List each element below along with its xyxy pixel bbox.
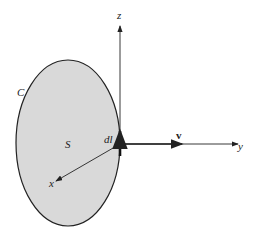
y-axis-label: y — [237, 140, 243, 152]
x-axis-label: x — [48, 177, 54, 189]
curve-label: C — [17, 86, 25, 98]
dl-label: dl — [104, 133, 113, 145]
surface-label: S — [65, 138, 71, 150]
velocity-label: v — [176, 129, 182, 141]
z-axis-label: z — [116, 9, 122, 21]
diagram: z y x v C S dl — [0, 0, 256, 236]
